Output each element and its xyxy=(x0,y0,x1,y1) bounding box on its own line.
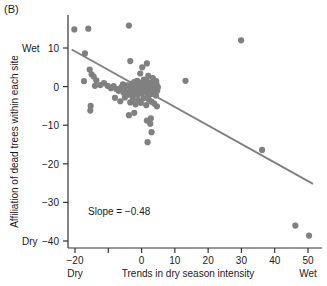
data-point xyxy=(139,64,145,70)
x-tick-label: 40 xyxy=(269,255,280,266)
data-point xyxy=(85,26,91,32)
data-point xyxy=(154,103,160,109)
x-tick-label: 50 xyxy=(302,255,313,266)
data-point xyxy=(238,37,244,43)
data-point xyxy=(155,84,161,90)
data-point xyxy=(137,70,143,76)
x-axis-low-label: Dry xyxy=(67,268,83,279)
data-point xyxy=(148,115,154,121)
y-tick-label: 0 xyxy=(0,81,59,92)
data-point xyxy=(127,58,133,64)
data-point xyxy=(153,78,159,84)
data-point xyxy=(120,81,126,87)
regression-line xyxy=(72,50,313,184)
data-point xyxy=(126,112,132,118)
data-point xyxy=(306,233,312,239)
y-tick-label: −10 xyxy=(0,120,59,131)
data-point xyxy=(87,107,93,113)
y-axis-low-label: Dry xyxy=(22,236,38,247)
data-point xyxy=(92,83,98,89)
data-point xyxy=(71,26,77,32)
data-point xyxy=(148,129,154,135)
data-point xyxy=(144,139,150,145)
data-point xyxy=(140,95,146,101)
x-tick-label: 0 xyxy=(139,255,145,266)
data-point xyxy=(81,78,87,84)
figure-panel-b: (B) Affiliation of dead trees within eac… xyxy=(0,0,327,286)
x-axis-high-label: Wet xyxy=(299,268,317,279)
data-point xyxy=(130,96,136,102)
data-point xyxy=(126,23,132,29)
y-axis-high-label: Wet xyxy=(22,43,40,54)
x-tick-label: 30 xyxy=(236,255,247,266)
data-point xyxy=(182,78,188,84)
x-tick-label: −20 xyxy=(67,255,84,266)
data-point xyxy=(112,95,118,101)
x-tick-label: 10 xyxy=(169,255,180,266)
y-tick-label: −20 xyxy=(0,158,59,169)
data-point xyxy=(117,98,123,104)
data-point xyxy=(131,110,137,116)
data-point xyxy=(292,222,298,228)
data-point xyxy=(147,121,153,127)
data-point xyxy=(143,102,149,108)
x-tick-label: 20 xyxy=(203,255,214,266)
data-point xyxy=(82,50,88,56)
y-tick-label: −30 xyxy=(0,197,59,208)
data-point xyxy=(259,147,265,153)
